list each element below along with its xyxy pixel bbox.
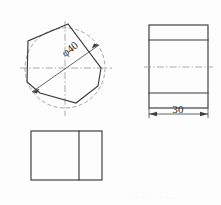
diameter-dimension-text: φ40	[59, 38, 80, 58]
width-dimension-text: 30	[172, 103, 184, 115]
width-arrow-left	[149, 112, 157, 116]
drawing-canvas: φ40 30 · · ··· ·· ···	[0, 0, 221, 205]
top-view-outline	[31, 131, 102, 180]
side-view-rectangle	[144, 25, 213, 108]
heptagon-outline	[27, 24, 101, 103]
engineering-drawing-sheet: φ40 30 · · ··· ·· ···	[0, 0, 221, 205]
diameter-dimension: φ40	[32, 38, 99, 93]
sheet-caption: · · ··· ·· ···	[128, 193, 178, 202]
width-arrow-right	[200, 112, 208, 116]
side-view-outline	[149, 25, 208, 108]
top-view-rectangle	[31, 131, 102, 180]
width-dimension: 30	[149, 103, 208, 118]
